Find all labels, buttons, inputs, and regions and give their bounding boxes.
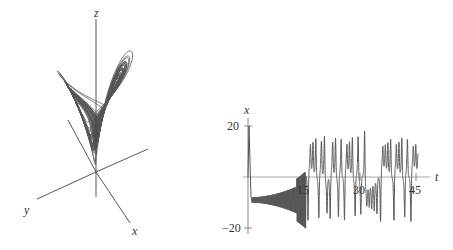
t-tick-label-15: 15 xyxy=(297,183,309,197)
y-tick-label-20: 20 xyxy=(227,119,239,133)
attractor-curve xyxy=(57,51,132,165)
x-axis-front xyxy=(96,172,130,223)
y-axis xyxy=(37,172,96,199)
t-label: t xyxy=(435,170,439,184)
t-tick-label-45: 45 xyxy=(409,183,421,197)
lorenz-attractor-panel: z y x xyxy=(23,6,148,238)
y-axis-label: y xyxy=(23,203,30,217)
time-series-panel: x t 20 −20 15 30 45 xyxy=(222,103,439,235)
y-tick-label-neg20: −20 xyxy=(222,221,241,235)
t-tick-label-30: 30 xyxy=(353,183,365,197)
x-axis-label: x xyxy=(131,224,138,238)
figure-canvas: z y x x t 20 −20 15 30 45 xyxy=(0,0,453,250)
attractor-tail xyxy=(96,149,148,172)
z-axis-label: z xyxy=(93,6,99,20)
x-label: x xyxy=(243,103,250,117)
